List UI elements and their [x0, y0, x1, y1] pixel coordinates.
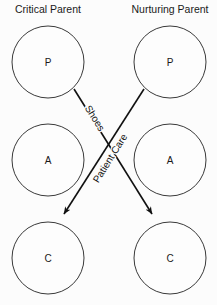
ego-label-left-child: C	[44, 253, 51, 264]
diagram-canvas: Critical Parent Nurturing Parent P A C P…	[0, 0, 217, 305]
column-heading-nurturing-parent: Nurturing Parent	[131, 3, 208, 15]
ego-state-left-child[interactable]: C	[12, 222, 84, 294]
transaction-diagram: Critical Parent Nurturing Parent P A C P…	[0, 0, 217, 305]
ego-state-right-adult[interactable]: A	[134, 124, 206, 196]
column-heading-critical-parent: Critical Parent	[15, 3, 81, 15]
arrow-label-shoes: Shoes	[83, 103, 107, 133]
ego-state-left-parent[interactable]: P	[12, 26, 84, 98]
ego-label-right-child: C	[166, 253, 173, 264]
ego-label-right-parent: P	[167, 57, 174, 68]
ego-state-right-parent[interactable]: P	[134, 26, 206, 98]
arrow-label-patient-care: Patient Care	[91, 131, 130, 184]
ego-label-left-adult: A	[45, 155, 52, 166]
ego-state-left-adult[interactable]: A	[12, 124, 84, 196]
ego-label-right-adult: A	[167, 155, 174, 166]
ego-label-left-parent: P	[45, 57, 52, 68]
ego-state-right-child[interactable]: C	[134, 222, 206, 294]
